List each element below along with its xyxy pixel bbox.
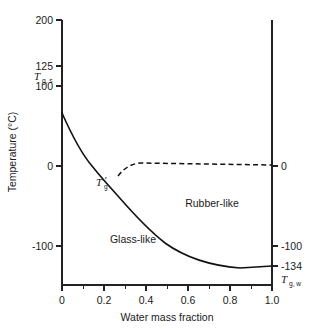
x-tick-label-04: 0.4 bbox=[139, 294, 154, 306]
y-tick-label-200: 200 bbox=[35, 14, 53, 26]
chart-canvas: 200 125 100 0 -100 0 -100 -134 bbox=[0, 0, 321, 329]
y-right-tick-label-0: 0 bbox=[281, 160, 287, 172]
glass-like-region-label: Glass-like bbox=[110, 233, 156, 245]
x-axis-ticks bbox=[62, 285, 272, 291]
rubber-like-region-label: Rubber-like bbox=[185, 197, 239, 209]
x-tick-label-10: 1.0 bbox=[265, 294, 280, 306]
tg-prime-symbol: T bbox=[96, 176, 103, 188]
x-tick-label-06: 0.6 bbox=[181, 294, 196, 306]
tg-prime-annotation: T ′ g bbox=[96, 174, 108, 191]
x-tick-label-08: 0.8 bbox=[223, 294, 238, 306]
tg-solid-symbol: T bbox=[34, 70, 41, 82]
y-right-tick-label-neg134: -134 bbox=[281, 260, 302, 272]
y-axis-title: Temperature (°C) bbox=[6, 112, 18, 193]
tg-water-subscript: g, w bbox=[289, 280, 301, 288]
x-axis-tick-labels: 0 0.2 0.4 0.6 0.8 1.0 bbox=[59, 294, 279, 306]
tg-prime-subscript: g bbox=[104, 183, 108, 191]
state-diagram-figure: 200 125 100 0 -100 0 -100 -134 bbox=[0, 0, 321, 329]
y-tick-label-neg100: -100 bbox=[32, 240, 53, 252]
ice-melting-dashed-line bbox=[118, 163, 272, 176]
y-axis-right-tick-labels: 0 -100 -134 bbox=[281, 160, 302, 272]
x-tick-label-0: 0 bbox=[59, 294, 65, 306]
tg-water-annotation: T g, w bbox=[281, 273, 301, 288]
y-right-tick-label-neg100: -100 bbox=[281, 240, 302, 252]
y-tick-label-0: 0 bbox=[47, 160, 53, 172]
x-axis-title: Water mass fraction bbox=[121, 311, 214, 323]
glass-transition-curve bbox=[62, 113, 272, 268]
y-axis-right-ticks bbox=[272, 166, 278, 266]
tg-solid-subscript: g, s bbox=[42, 77, 53, 85]
tg-water-symbol: T bbox=[281, 273, 288, 285]
y-axis-left-ticks bbox=[56, 20, 62, 246]
y-axis-left-tick-labels: 200 125 100 0 -100 bbox=[32, 14, 53, 252]
x-tick-label-02: 0.2 bbox=[97, 294, 112, 306]
